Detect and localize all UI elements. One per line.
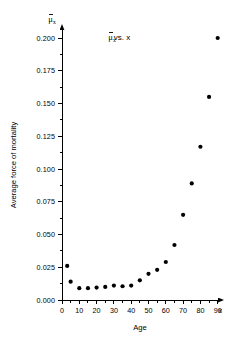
- y-tick-label: 0.125: [37, 132, 56, 141]
- data-point: [69, 280, 73, 284]
- data-point: [103, 285, 107, 289]
- y-tick-label: 0.075: [37, 197, 56, 206]
- y-tick-label: 0.100: [37, 165, 56, 174]
- y-axis-symbol: μx: [48, 14, 56, 25]
- x-tick-label: 10: [75, 306, 83, 315]
- y-tick-label: 0.025: [37, 263, 56, 272]
- chart-title-text: vs. x: [114, 33, 130, 42]
- data-point: [129, 283, 133, 287]
- data-point: [112, 283, 116, 287]
- y-tick-label: 0.175: [37, 66, 56, 75]
- x-axis-symbol: x: [218, 306, 222, 315]
- x-axis-ticks: 0102030405060708090: [60, 300, 222, 315]
- data-point: [95, 285, 99, 289]
- x-tick-label: 30: [110, 306, 118, 315]
- y-tick-label: 0.000: [37, 296, 56, 305]
- axes-group: [62, 30, 218, 300]
- data-points-group: [65, 36, 220, 290]
- data-point: [216, 36, 220, 40]
- data-point: [164, 260, 168, 264]
- svg-text:μx: μx: [48, 14, 56, 25]
- data-point: [86, 286, 90, 290]
- x-tick-label: 80: [196, 306, 204, 315]
- x-tick-label: 0: [60, 306, 64, 315]
- chart-container: 0.0000.0250.0500.0750.1000.1250.1500.175…: [0, 0, 233, 337]
- y-tick-label: 0.150: [37, 99, 56, 108]
- data-point: [181, 213, 185, 217]
- x-tick-label: 60: [162, 306, 170, 315]
- y-tick-label: 0.200: [37, 34, 56, 43]
- data-point: [172, 243, 176, 247]
- y-tick-label: 0.050: [37, 230, 56, 239]
- x-tick-label: 50: [145, 306, 153, 315]
- scatter-plot: 0.0000.0250.0500.0750.1000.1250.1500.175…: [0, 0, 233, 337]
- data-point: [146, 272, 150, 276]
- data-point: [190, 181, 194, 185]
- x-tick-label: 40: [127, 306, 135, 315]
- y-axis-title: Average force of mortality: [9, 122, 18, 209]
- data-point: [120, 284, 124, 288]
- data-point: [65, 264, 69, 268]
- chart-title: μxvs. x: [108, 32, 130, 43]
- data-point: [207, 95, 211, 99]
- x-axis-title: Age: [133, 323, 147, 332]
- data-point: [198, 145, 202, 149]
- data-point: [155, 268, 159, 272]
- x-tick-label: 70: [179, 306, 187, 315]
- y-axis-ticks: 0.0000.0250.0500.0750.1000.1250.1500.175…: [37, 34, 63, 305]
- x-tick-label: 20: [93, 306, 101, 315]
- data-point: [77, 286, 81, 290]
- data-point: [138, 278, 142, 282]
